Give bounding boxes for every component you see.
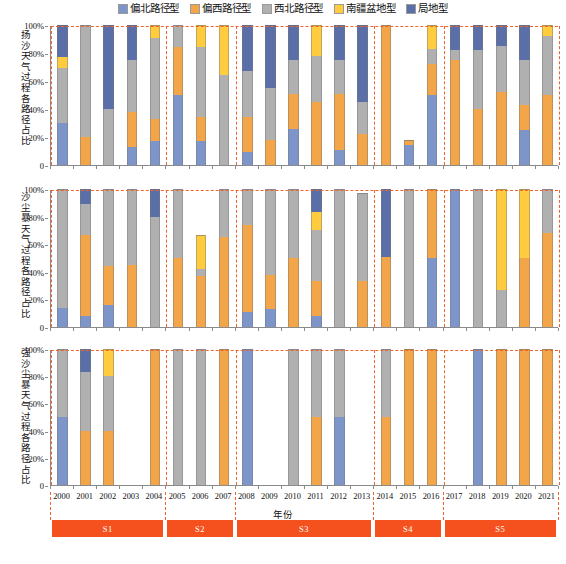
stacked-bar-2015[interactable] — [404, 349, 415, 485]
stacked-bar-2017[interactable] — [450, 25, 461, 165]
stacked-bar-2006[interactable] — [196, 235, 207, 327]
stacked-bar-2014[interactable] — [381, 25, 392, 165]
stacked-bar-2004[interactable] — [150, 349, 161, 485]
stacked-bar-2000[interactable] — [57, 349, 68, 485]
stacked-bar-2012[interactable] — [334, 349, 345, 485]
stage-bar-s5[interactable]: S5 — [445, 520, 556, 537]
x-tick-mark — [212, 166, 213, 169]
stacked-bar-2001[interactable] — [80, 349, 91, 485]
hundred-percent-guideline — [51, 190, 558, 191]
legend-item-basin[interactable]: 南疆盆地型 — [334, 4, 395, 15]
legend-item-west[interactable]: 偏西路径型 — [190, 4, 251, 15]
stage-separator-line — [444, 190, 445, 327]
stacked-bar-2016[interactable] — [427, 349, 438, 485]
stacked-bar-2019[interactable] — [496, 189, 507, 327]
stage-bar-s4[interactable]: S4 — [375, 520, 440, 537]
stacked-bar-2019[interactable] — [496, 349, 507, 485]
stacked-bar-2018[interactable] — [473, 349, 484, 485]
stacked-bar-2009[interactable] — [265, 189, 276, 327]
stacked-bar-2003[interactable] — [127, 189, 138, 327]
stage-bar-label: S5 — [495, 524, 505, 534]
stacked-bar-2020[interactable] — [519, 189, 530, 327]
stacked-bar-2021[interactable] — [542, 189, 553, 327]
stacked-bar-2001[interactable] — [80, 25, 91, 165]
stage-bar-s1[interactable]: S1 — [52, 520, 163, 537]
stacked-bar-2015[interactable] — [404, 140, 415, 165]
stacked-bar-2007[interactable] — [219, 25, 230, 165]
bar-segment-northwest — [150, 217, 161, 327]
stacked-bar-2011[interactable] — [311, 25, 322, 165]
x-tick-mark — [512, 486, 513, 489]
stacked-bar-2009[interactable] — [265, 25, 276, 165]
stage-bar-s3[interactable]: S3 — [237, 520, 372, 537]
stacked-bar-2006[interactable] — [196, 349, 207, 485]
stacked-bar-2002[interactable] — [103, 25, 114, 165]
stacked-bar-2017[interactable] — [450, 189, 461, 327]
bar-segment-west — [311, 417, 322, 485]
stacked-bar-2018[interactable] — [473, 25, 484, 165]
x-tick-mark — [281, 328, 282, 331]
bar-segment-northwest — [196, 349, 207, 485]
bar-segment-northwest — [57, 349, 68, 417]
stacked-bar-2013[interactable] — [357, 193, 368, 327]
stacked-bar-2018[interactable] — [473, 189, 484, 327]
y-tick-label: 40% — [28, 268, 44, 278]
bar-segment-west — [427, 349, 438, 485]
stacked-bar-2000[interactable] — [57, 189, 68, 327]
stacked-bar-2011[interactable] — [311, 189, 322, 327]
stacked-bar-2014[interactable] — [381, 349, 392, 485]
x-axis-year-labels: 2000200120022003200420052006200720082009… — [50, 492, 558, 506]
bar-segment-northwest — [242, 71, 253, 117]
stacked-bar-2011[interactable] — [311, 349, 322, 485]
bar-segment-local — [127, 25, 138, 60]
stacked-bar-2001[interactable] — [80, 189, 91, 327]
stacked-bar-2016[interactable] — [427, 25, 438, 165]
stacked-bar-2005[interactable] — [173, 349, 184, 485]
x-tick-mark — [443, 486, 444, 489]
stacked-bar-2003[interactable] — [127, 25, 138, 165]
stacked-bar-2004[interactable] — [150, 189, 161, 327]
stacked-bar-2013[interactable] — [357, 25, 368, 165]
stacked-bar-2016[interactable] — [427, 189, 438, 327]
bar-segment-west — [519, 349, 530, 485]
bar-segment-north — [427, 258, 438, 327]
stacked-bar-2006[interactable] — [196, 25, 207, 165]
stacked-bar-2002[interactable] — [103, 189, 114, 327]
stacked-bar-2005[interactable] — [173, 25, 184, 165]
stacked-bar-2021[interactable] — [542, 25, 553, 165]
stacked-bar-2000[interactable] — [57, 25, 68, 165]
stacked-bar-2010[interactable] — [288, 349, 299, 485]
legend-item-north[interactable]: 偏北路径型 — [118, 4, 179, 15]
stacked-bar-2012[interactable] — [334, 25, 345, 165]
bar-segment-west — [496, 92, 507, 165]
bar-segment-west — [519, 258, 530, 327]
stacked-bar-2008[interactable] — [242, 349, 253, 485]
stacked-bar-2010[interactable] — [288, 25, 299, 165]
x-tick-mark — [50, 328, 51, 331]
stacked-bar-2010[interactable] — [288, 189, 299, 327]
x-tick-mark — [258, 328, 259, 331]
x-tick-mark — [466, 328, 467, 331]
stacked-bar-2021[interactable] — [542, 349, 553, 485]
legend-item-local[interactable]: 局地型 — [406, 4, 447, 15]
stacked-bar-2008[interactable] — [242, 25, 253, 165]
stacked-bar-2020[interactable] — [519, 349, 530, 485]
stacked-bar-2005[interactable] — [173, 189, 184, 327]
stacked-bar-2012[interactable] — [334, 189, 345, 327]
stacked-bar-2007[interactable] — [219, 189, 230, 327]
bar-segment-north — [57, 308, 68, 327]
stacked-bar-2002[interactable] — [103, 349, 114, 485]
x-tick-mark — [50, 166, 51, 169]
stacked-bar-2015[interactable] — [404, 189, 415, 327]
stacked-bar-2004[interactable] — [150, 25, 161, 165]
stacked-bar-2014[interactable] — [381, 189, 392, 327]
legend-item-northwest[interactable]: 西北路径型 — [262, 4, 323, 15]
stacked-bar-2007[interactable] — [219, 349, 230, 485]
stacked-bar-2008[interactable] — [242, 189, 253, 327]
stacked-bar-2020[interactable] — [519, 25, 530, 165]
x-tick-mark — [304, 166, 305, 169]
stacked-bar-2019[interactable] — [496, 25, 507, 165]
x-tick-mark — [73, 166, 74, 169]
panel-middle-x-ticks — [50, 328, 558, 334]
stage-bar-s2[interactable]: S2 — [167, 520, 232, 537]
